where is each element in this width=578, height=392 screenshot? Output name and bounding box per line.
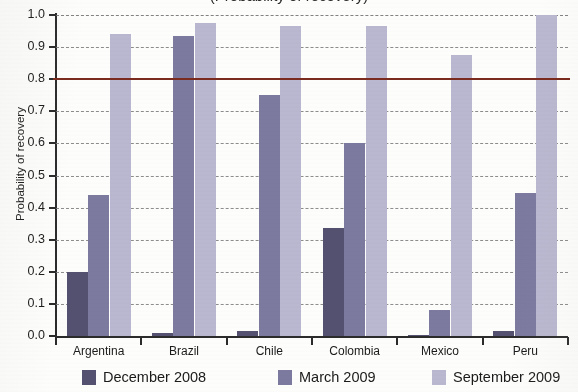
chart-figure: (Probability of recovery) Probability of… xyxy=(0,0,578,392)
bar xyxy=(429,310,450,336)
bar xyxy=(173,36,194,336)
y-axis-tick-label: 0.9 xyxy=(0,39,45,53)
bar xyxy=(195,23,216,336)
x-axis-category-labels: ArgentinaBrazilChileColombiaMexicoPeru xyxy=(0,344,578,362)
legend-item[interactable]: December 2008 xyxy=(82,366,206,388)
bar-group xyxy=(141,15,226,336)
x-axis-category-label: Chile xyxy=(227,344,312,358)
bar xyxy=(515,193,536,336)
bar xyxy=(344,143,365,336)
bar xyxy=(323,228,344,336)
bar xyxy=(152,333,173,336)
legend-swatch xyxy=(82,370,96,385)
legend-label: December 2008 xyxy=(103,369,206,385)
x-axis-category-label: Argentina xyxy=(56,344,141,358)
bar xyxy=(451,55,472,336)
legend-label: September 2009 xyxy=(453,369,560,385)
x-axis-category-label: Colombia xyxy=(312,344,397,358)
bar xyxy=(237,331,258,336)
x-axis-category-label: Mexico xyxy=(397,344,482,358)
y-axis-tick-labels: 0.00.10.20.30.40.50.60.70.80.91.0 xyxy=(0,0,48,392)
y-axis-tick-label: 0.1 xyxy=(0,296,45,310)
y-axis-tick-label: 0.0 xyxy=(0,328,45,342)
cropped-title-remnant: (Probability of recovery) xyxy=(0,0,578,9)
bar xyxy=(408,335,429,336)
y-axis-tick-label: 0.3 xyxy=(0,232,45,246)
bar xyxy=(366,26,387,336)
bar-group xyxy=(397,15,482,336)
x-axis-category-label: Brazil xyxy=(141,344,226,358)
bar xyxy=(259,95,280,336)
legend-label: March 2009 xyxy=(299,369,376,385)
legend-swatch xyxy=(278,370,292,385)
y-axis-tick-label: 0.7 xyxy=(0,103,45,117)
chart-legend: December 2008March 2009September 2009 xyxy=(0,366,578,390)
x-axis-category-label: Peru xyxy=(483,344,568,358)
bar xyxy=(88,195,109,336)
legend-item[interactable]: September 2009 xyxy=(432,366,560,388)
y-axis-tick-label: 0.2 xyxy=(0,264,45,278)
bar xyxy=(536,15,557,336)
bar xyxy=(67,272,88,336)
y-axis-tick-label: 0.5 xyxy=(0,168,45,182)
y-axis-tick-label: 0.8 xyxy=(0,71,45,85)
bar-group xyxy=(483,15,568,336)
bar-group xyxy=(56,15,141,336)
threshold-line xyxy=(53,78,570,80)
bar-group xyxy=(227,15,312,336)
bar xyxy=(280,26,301,336)
legend-swatch xyxy=(432,370,446,385)
bar-groups xyxy=(56,15,568,336)
bar-group xyxy=(312,15,397,336)
y-axis-tick-label: 0.4 xyxy=(0,200,45,214)
bar xyxy=(493,331,514,336)
y-axis-tick-label: 1.0 xyxy=(0,7,45,21)
plot-area xyxy=(56,15,568,336)
y-axis-tick-label: 0.6 xyxy=(0,135,45,149)
legend-item[interactable]: March 2009 xyxy=(278,366,376,388)
